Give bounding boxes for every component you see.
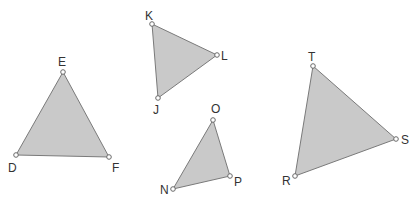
triangle-def: DEF [8, 55, 119, 175]
vertex-d-point [14, 153, 19, 158]
vertex-o-label: O [211, 102, 220, 116]
vertex-j-label: J [153, 103, 159, 117]
vertex-r-label: R [282, 174, 291, 188]
triangle-nop: NOP [160, 102, 242, 197]
vertex-l-point [215, 53, 220, 58]
vertex-t-label: T [308, 50, 316, 64]
vertex-n-point [171, 187, 176, 192]
triangle-def-shape [16, 72, 109, 157]
vertex-n-label: N [160, 183, 169, 197]
vertex-f-point [107, 155, 112, 160]
vertex-o-point [211, 118, 216, 123]
vertex-k-label: K [145, 9, 153, 23]
vertex-t-point [311, 64, 316, 69]
triangle-jkl: JKL [145, 9, 228, 117]
vertex-s-label: S [401, 133, 409, 147]
triangle-rst-shape [295, 66, 396, 176]
triangle-nop-shape [173, 120, 230, 189]
vertex-j-point [156, 96, 161, 101]
triangle-jkl-shape [152, 24, 217, 98]
vertex-s-point [394, 137, 399, 142]
triangles-diagram: DEF JKL NOP RST [0, 0, 420, 210]
vertex-p-point [228, 174, 233, 179]
vertex-d-label: D [8, 161, 17, 175]
vertex-e-point [61, 70, 66, 75]
vertex-p-label: P [234, 175, 242, 189]
vertex-f-label: F [112, 161, 119, 175]
vertex-r-point [293, 174, 298, 179]
triangle-rst: RST [282, 50, 409, 188]
vertex-l-label: L [221, 49, 228, 63]
vertex-e-label: E [58, 55, 66, 69]
